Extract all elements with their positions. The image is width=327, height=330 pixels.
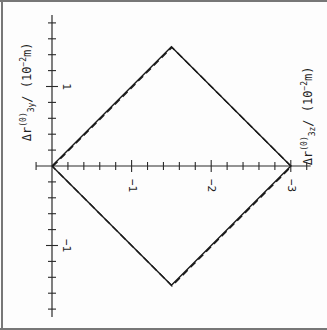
x-tick-label: −3 xyxy=(285,178,296,194)
x-tick-label: −2 xyxy=(206,178,217,194)
series-dashed-line xyxy=(53,47,292,286)
y-tick-label: 1 xyxy=(61,78,72,94)
x-axis-title: Δr(0)3z/ (10−2m) xyxy=(301,55,317,165)
axes xyxy=(36,15,311,317)
figure: −1−2−31−1 Δr(0)3y/ (10−2m) Δr(0)3z/ (10−… xyxy=(0,0,327,330)
y-tick-label: −1 xyxy=(61,237,72,253)
x-tick-label: −1 xyxy=(126,178,137,194)
y-axis-title: Δr(0)3y/ (10−2m) xyxy=(20,31,36,141)
plot-area xyxy=(0,0,327,330)
